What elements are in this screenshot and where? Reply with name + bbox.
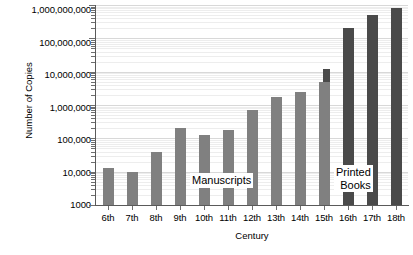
y-tick-mark-major: [89, 38, 95, 39]
y-tick-mark-minor: [91, 179, 95, 180]
x-tick-label-18th: 18th: [380, 212, 412, 223]
gridline-minor: [96, 73, 408, 74]
y-tick-mark-minor: [91, 79, 95, 80]
y-tick-mark-minor: [91, 115, 95, 116]
bar-printed-books-18th: [391, 8, 402, 205]
annotation-manuscripts: Manuscripts: [190, 173, 253, 188]
y-tick-mark-minor: [91, 148, 95, 149]
gridline-minor: [96, 62, 408, 63]
y-tick-mark-minor: [91, 107, 95, 108]
gridline-minor: [96, 82, 408, 83]
y-tick-mark-minor: [91, 118, 95, 119]
y-tick-mark-minor: [91, 156, 95, 157]
annotation-printed-books-line2: Books: [336, 179, 371, 192]
x-tick-mark-6th: [108, 206, 109, 210]
y-tick-mark-minor: [91, 142, 95, 143]
gridline-major: [96, 72, 408, 73]
gridline-minor: [96, 89, 408, 90]
bar-manuscripts-9th: [175, 128, 186, 205]
gridline-minor: [96, 28, 408, 29]
gridline-minor: [96, 79, 408, 80]
gridline-minor: [96, 44, 408, 45]
y-tick-mark-minor: [91, 162, 95, 163]
gridline-minor: [96, 22, 408, 23]
y-tick-mark-minor: [91, 15, 95, 16]
y-tick-mark-minor: [91, 195, 95, 196]
y-tick-label-1000000000: 1,000,000,000: [32, 5, 91, 15]
y-tick-mark-minor: [91, 12, 95, 13]
y-tick-mark-minor: [91, 85, 95, 86]
bar-manuscripts-7th: [127, 172, 138, 205]
gridline-minor: [96, 40, 408, 41]
bar-chart: Number of Copies 1000 10,000 100,000 1,0…: [0, 0, 413, 255]
y-tick-mark-minor: [91, 62, 95, 63]
y-tick-mark-minor: [91, 189, 95, 190]
y-tick-label-1000: 1000: [70, 200, 91, 210]
y-tick-label-10000: 10,000: [63, 168, 91, 178]
y-tick-mark-minor: [91, 173, 95, 174]
x-tick-mark-7th: [132, 206, 133, 210]
y-tick-mark-minor: [91, 75, 95, 76]
gridline-minor: [96, 15, 408, 16]
gridline-minor: [96, 95, 408, 96]
y-tick-mark-minor: [91, 46, 95, 47]
gridline-minor: [96, 7, 408, 8]
y-tick-mark-major: [89, 205, 95, 206]
x-tick-mark-15th: [324, 206, 325, 210]
y-axis-title: Number of Copies: [23, 21, 34, 181]
x-tick-mark-10th: [204, 206, 205, 210]
y-tick-mark-minor: [91, 56, 95, 57]
y-tick-mark-minor: [91, 22, 95, 23]
y-tick-label-100000000: 100,000,000: [39, 38, 91, 48]
y-tick-mark-minor: [91, 8, 95, 9]
gridline-minor: [96, 108, 408, 109]
x-tick-mark-18th: [396, 206, 397, 210]
x-tick-mark-12th: [252, 206, 253, 210]
y-tick-mark-major: [89, 138, 95, 139]
gridline-major: [96, 38, 408, 39]
y-tick-mark-minor: [91, 177, 95, 178]
x-tick-mark-11th: [228, 206, 229, 210]
y-tick-mark-minor: [91, 7, 95, 8]
x-axis-title: Century: [96, 230, 408, 241]
x-tick-mark-9th: [180, 206, 181, 210]
y-tick-mark-minor: [91, 48, 95, 49]
y-tick-mark-minor: [91, 144, 95, 145]
gridline-minor: [96, 18, 408, 19]
y-tick-label-100000: 100,000: [57, 135, 91, 145]
bar-manuscripts-15th: [319, 82, 330, 205]
y-tick-label-1000000: 1,000,000: [50, 103, 91, 113]
y-tick-mark-minor: [91, 128, 95, 129]
y-tick-mark-minor: [91, 18, 95, 19]
bar-manuscripts-13th: [271, 97, 282, 205]
y-tick-mark-minor: [91, 122, 95, 123]
y-tick-mark-major: [89, 72, 95, 73]
gridline-minor: [96, 56, 408, 57]
bar-manuscripts-8th: [151, 152, 162, 205]
y-tick-mark-minor: [91, 10, 95, 11]
x-tick-mark-8th: [156, 206, 157, 210]
gridline-minor: [96, 42, 408, 43]
y-tick-mark-minor: [91, 175, 95, 176]
y-tick-mark-minor: [91, 52, 95, 53]
y-tick-mark-minor: [91, 40, 95, 41]
y-tick-mark-minor: [91, 77, 95, 78]
annotation-printed-books-line1: Printed: [336, 166, 371, 179]
gridline-minor: [96, 75, 408, 76]
y-tick-mark-minor: [91, 44, 95, 45]
gridline-minor: [96, 52, 408, 53]
bar-manuscripts-11th: [223, 130, 234, 205]
y-tick-mark-minor: [91, 28, 95, 29]
x-tick-mark-14th: [300, 206, 301, 210]
y-tick-mark-major: [89, 172, 95, 173]
y-tick-mark-minor: [91, 108, 95, 109]
x-tick-mark-13th: [276, 206, 277, 210]
y-tick-mark-minor: [91, 73, 95, 74]
y-tick-mark-minor: [91, 112, 95, 113]
y-tick-mark-minor: [91, 110, 95, 111]
y-tick-mark-minor: [91, 82, 95, 83]
bar-manuscripts-12th: [247, 110, 258, 205]
bar-manuscripts-14th: [295, 92, 306, 205]
gridline-minor: [96, 77, 408, 78]
y-tick-mark-minor: [91, 182, 95, 183]
